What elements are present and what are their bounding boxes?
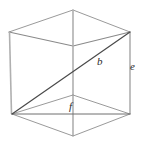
edge-top-front-right [73,32,130,46]
edge-left-vertical [10,32,12,114]
label-base-diagonal-f: f [69,101,72,112]
edge-bottom-front-right [73,114,130,136]
label-vertical-edge-e: e [130,61,135,72]
edge-top-back-left [9,10,73,32]
edge-bottom-back-left [12,95,73,114]
edge-top-back-right [73,10,130,32]
edge-top-front-left [9,32,73,46]
edge-bottom-front-left [12,114,73,136]
box-wireframe-svg [0,0,145,144]
box-diagram-figure: b e f [0,0,145,144]
label-space-diagonal-b: b [97,56,103,67]
edge-bottom-back-right [73,95,130,114]
